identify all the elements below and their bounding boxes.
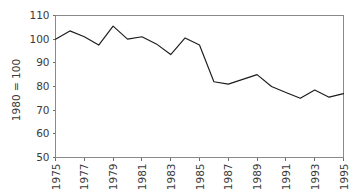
chart-container: 5060708090100110 19751977197919811983198…: [0, 0, 363, 192]
x-axis-tick-label: 1977: [78, 164, 90, 191]
x-axis-tick-label: 1975: [50, 164, 62, 191]
y-axis-tick-label: 50: [36, 151, 49, 163]
x-axis-tick-label: 1981: [136, 164, 148, 191]
y-axis-tick-label: 100: [29, 33, 49, 45]
x-axis-tick-label: 1989: [251, 164, 263, 191]
line-chart: 5060708090100110 19751977197919811983198…: [0, 0, 363, 192]
x-axis-tick-label: 1995: [338, 164, 350, 191]
x-axis-tick-label: 1979: [107, 164, 119, 191]
chart-background: [0, 0, 363, 192]
y-axis-tick-label: 70: [36, 104, 49, 116]
y-axis-tick-label: 80: [36, 80, 49, 92]
x-axis-tick-label: 1985: [194, 164, 206, 191]
x-axis-tick-label: 1983: [165, 164, 177, 191]
y-axis-tick-label: 60: [36, 127, 49, 139]
y-axis-tick-label: 110: [29, 9, 49, 21]
x-axis-tick-label: 1991: [280, 164, 292, 191]
x-axis-tick-label: 1987: [222, 164, 234, 191]
y-axis-title: 1980 = 100: [10, 59, 22, 121]
x-axis-tick-label: 1993: [309, 164, 321, 191]
y-axis-tick-label: 90: [36, 56, 49, 68]
